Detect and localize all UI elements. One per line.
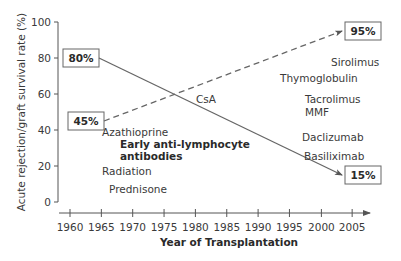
end-label-text: 15% [350, 169, 376, 181]
annotation-basiliximab: Basiliximab [304, 150, 365, 162]
annotation-radiation: Radiation [102, 165, 152, 177]
x-tick-label: 2000 [308, 221, 335, 233]
x-tick-label: 1965 [88, 221, 115, 233]
y-axis-title: Acute rejection/graft survival rate (%) [15, 13, 27, 211]
end-label-text: 95% [350, 25, 376, 37]
x-tick-label: 1980 [182, 221, 209, 233]
annotation-tacrolimus: Tacrolimus [304, 93, 361, 105]
x-tick-label: 1990 [245, 221, 272, 233]
start-label-text: 80% [68, 52, 94, 64]
end-label-box: 15% [345, 166, 381, 184]
y-tick-label: 0 [44, 196, 51, 208]
start-label-box: 80% [63, 49, 99, 67]
y-tick-label: 40 [38, 124, 51, 136]
annotation-mmf: MMF [305, 106, 329, 118]
y-tick-label: 100 [31, 16, 51, 28]
y-tick-label: 20 [38, 160, 51, 172]
annotation-early-anti-lymphocyte: Early anti-lymphocyte [120, 138, 250, 150]
annotation-thymoglobulin: Thymoglobulin [279, 72, 358, 84]
x-tick-label: 1985 [213, 221, 240, 233]
x-tick-label: 2005 [339, 221, 366, 233]
annotation-antibodies: antibodies [120, 150, 182, 162]
x-tick-label: 1960 [57, 221, 84, 233]
annotation-daclizumab: Daclizumab [302, 131, 364, 143]
end-label-box: 95% [345, 22, 381, 40]
x-tick-label: 1995 [276, 221, 303, 233]
start-label-text: 45% [73, 115, 99, 127]
annotation-sirolimus: Sirolimus [331, 56, 379, 68]
y-tick-label: 60 [38, 88, 51, 100]
y-tick-label: 80 [38, 52, 51, 64]
x-tick-label: 1970 [119, 221, 146, 233]
annotation-csa: CsA [196, 93, 217, 105]
chart: 020406080100 196019651970197519801985199… [0, 0, 401, 261]
annotation-prednisone: Prednisone [109, 183, 167, 195]
x-axis-title: Year of Transplantation [159, 236, 298, 248]
start-label-box: 45% [68, 112, 104, 130]
x-tick-label: 1975 [151, 221, 178, 233]
annotation-azathioprine: Azathioprine [102, 126, 168, 138]
